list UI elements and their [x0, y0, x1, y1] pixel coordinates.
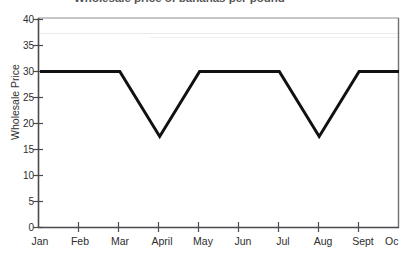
- x-tick-label-jan: Jan: [20, 236, 60, 247]
- x-tick-label-mar: Mar: [100, 236, 140, 247]
- x-tick-label-oct: Oc: [385, 236, 407, 247]
- x-tick-label-feb: Feb: [60, 236, 100, 247]
- x-tick-label-may: May: [183, 236, 223, 247]
- chart-figure: Wholesale price of bananas per pound Who…: [0, 0, 407, 257]
- x-tick-label-jul: Jul: [263, 236, 303, 247]
- x-tick-label-sept: Sept: [341, 236, 385, 247]
- x-tick-label-jun: Jun: [223, 236, 263, 247]
- x-tick-label-aug: Aug: [303, 236, 343, 247]
- plot-area: [0, 0, 407, 257]
- x-axis-tick-labels: Jan Feb Mar April May Jun Jul Aug Sept O…: [0, 236, 407, 257]
- x-tick-label-april: April: [140, 236, 184, 247]
- data-series-line: [40, 72, 399, 137]
